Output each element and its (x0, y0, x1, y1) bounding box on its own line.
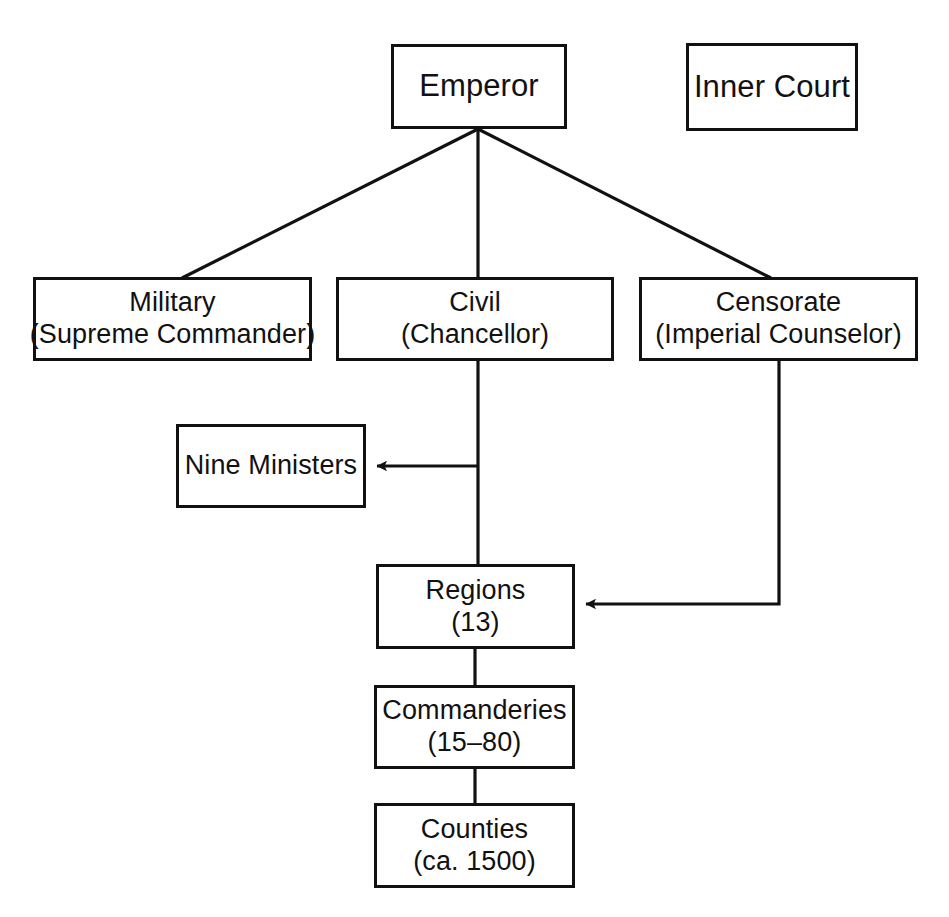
node-nine-ministers-title: Nine Ministers (185, 450, 357, 482)
node-regions-subtitle: (13) (451, 607, 499, 639)
node-regions[interactable]: Regions (13) (376, 564, 575, 649)
node-counties-subtitle: (ca. 1500) (413, 846, 536, 878)
node-nine-ministers[interactable]: Nine Ministers (176, 424, 366, 508)
node-censorate-subtitle: (Imperial Counselor) (655, 319, 902, 351)
edge-emperor-military (182, 129, 478, 278)
node-civil[interactable]: Civil (Chancellor) (336, 277, 614, 361)
edge-censorate-regions (586, 360, 779, 604)
node-emperor-title: Emperor (419, 68, 539, 105)
org-chart-diagram: Emperor Inner Court Military (Supreme Co… (0, 0, 949, 917)
node-commanderies[interactable]: Commanderies (15–80) (374, 685, 575, 769)
node-regions-title: Regions (426, 575, 526, 607)
node-civil-title: Civil (449, 287, 501, 319)
node-military[interactable]: Military (Supreme Commander) (33, 277, 312, 361)
node-counties-title: Counties (421, 814, 528, 846)
connector-lines (0, 0, 949, 917)
edge-emperor-censorate (478, 129, 771, 278)
node-censorate-title: Censorate (716, 287, 841, 319)
node-military-subtitle: (Supreme Commander) (30, 319, 316, 351)
node-commanderies-subtitle: (15–80) (428, 727, 522, 759)
node-censorate[interactable]: Censorate (Imperial Counselor) (639, 277, 918, 361)
node-emperor[interactable]: Emperor (391, 44, 567, 129)
node-inner-court[interactable]: Inner Court (686, 43, 858, 131)
node-counties[interactable]: Counties (ca. 1500) (374, 803, 575, 888)
node-civil-subtitle: (Chancellor) (401, 319, 549, 351)
node-inner-court-title: Inner Court (694, 69, 850, 106)
node-commanderies-title: Commanderies (382, 695, 566, 727)
node-military-title: Military (129, 287, 215, 319)
